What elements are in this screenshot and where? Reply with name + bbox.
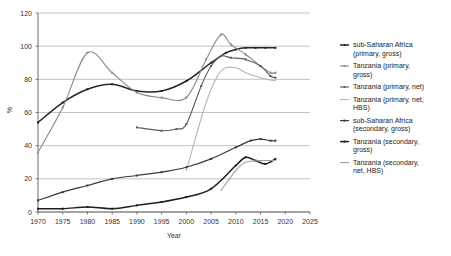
series-marker <box>62 107 64 109</box>
axis-lines <box>36 13 311 215</box>
series-marker <box>185 196 187 198</box>
legend-label: Tanzania (secondary,net, HBS) <box>353 159 419 175</box>
series-marker <box>255 47 257 49</box>
education-enrollment-chart: 020406080100120 197019751980198519901995… <box>0 0 451 256</box>
series-marker <box>111 72 113 74</box>
series-marker <box>269 72 271 74</box>
legend-entry-6[interactable]: Tanzania (secondary,net, HBS) <box>340 159 419 175</box>
series-marker <box>269 75 271 77</box>
legend-marker-icon <box>344 141 346 143</box>
x-tick-labels: 1970197519801985199019952000200520102015… <box>30 218 318 225</box>
series-marker <box>220 55 222 57</box>
y-axis-title: % <box>6 107 13 113</box>
x-axis-title-group: Year <box>167 232 182 239</box>
y-tick-label: 40 <box>24 142 32 149</box>
series-marker <box>200 85 202 87</box>
x-tick-label: 2020 <box>277 218 293 225</box>
legend-entry-1[interactable]: Tanzania (primary,gross) <box>340 62 410 78</box>
x-axis-title: Year <box>167 232 182 239</box>
x-tick-label: 1990 <box>129 218 145 225</box>
series-marker <box>161 90 163 92</box>
legend-marker-icon <box>344 44 346 46</box>
series-marker <box>37 199 39 201</box>
series-line-4 <box>38 139 275 200</box>
series-line-5 <box>38 157 275 209</box>
series-line-3 <box>186 67 275 170</box>
y-tick-label: 60 <box>24 109 32 116</box>
legend-entry-4[interactable]: sub-Saharan Africa(secondary, gross) <box>340 117 413 133</box>
series-marker <box>220 34 222 36</box>
x-tick-label: 2005 <box>203 218 219 225</box>
chart-canvas: 020406080100120 197019751980198519901995… <box>0 0 451 256</box>
legend-entry-3[interactable]: Tanzania (primary, net,HBS) <box>340 96 424 112</box>
series-marker <box>161 171 163 173</box>
series-marker <box>230 57 232 59</box>
legend-marker-icon <box>344 120 346 122</box>
series-marker <box>136 204 138 206</box>
series-line-6 <box>221 160 275 190</box>
series-marker <box>264 47 266 49</box>
y-tick-label: 80 <box>24 76 32 83</box>
y-axis-title-group: % <box>6 107 13 113</box>
series-marker <box>235 165 237 167</box>
x-tick-label: 1995 <box>154 218 170 225</box>
series-marker <box>225 52 227 54</box>
y-tick-label: 0 <box>28 209 32 216</box>
series-marker <box>210 158 212 160</box>
x-tick-label: 2015 <box>253 218 269 225</box>
legend-label: Tanzania (primary, net) <box>353 83 424 91</box>
x-tick-label: 2025 <box>302 218 318 225</box>
series-marker <box>245 47 247 49</box>
series-marker <box>274 140 276 142</box>
legend-label: Tanzania (primary, net,HBS) <box>353 96 424 112</box>
series-marker <box>210 62 212 64</box>
series-marker <box>175 128 177 130</box>
series-marker <box>260 138 262 140</box>
x-tick-label: 1975 <box>55 218 71 225</box>
series-marker <box>210 188 212 190</box>
series-marker <box>161 97 163 99</box>
x-tick-label: 1985 <box>104 218 120 225</box>
legend-entry-2[interactable]: Tanzania (primary, net) <box>340 83 424 91</box>
series-marker <box>37 121 39 123</box>
series-marker <box>161 130 163 132</box>
y-tick-label: 120 <box>20 10 32 17</box>
legend-marker-icon <box>344 86 346 88</box>
series-marker <box>111 178 113 180</box>
series-marker <box>264 163 266 165</box>
series-marker <box>269 140 271 142</box>
series-marker <box>274 158 276 160</box>
series-marker <box>62 208 64 210</box>
series-marker <box>136 126 138 128</box>
series-marker <box>245 53 247 55</box>
series-marker <box>230 44 232 46</box>
series-marker <box>245 156 247 158</box>
legend: sub-Saharan Africa(primary, gross)Tanzan… <box>340 41 424 175</box>
x-tick-label: 2010 <box>228 218 244 225</box>
series-marker <box>111 83 113 85</box>
series-marker <box>161 201 163 203</box>
legend-label: sub-Saharan Africa(secondary, gross) <box>353 117 413 133</box>
legend-label: Tanzania (secondary,gross) <box>353 138 419 154</box>
series-marker <box>86 206 88 208</box>
y-tick-labels: 020406080100120 <box>20 10 32 216</box>
legend-label: sub-Saharan Africa(primary, gross) <box>353 41 413 57</box>
series-marker <box>37 151 39 153</box>
y-tick-label: 100 <box>20 43 32 50</box>
series-marker <box>86 52 88 54</box>
legend-entry-5[interactable]: Tanzania (secondary,gross) <box>340 138 419 154</box>
series-marker <box>235 146 237 148</box>
series-marker <box>62 191 64 193</box>
series-marker <box>62 102 64 104</box>
x-tick-label: 1970 <box>30 218 46 225</box>
x-tick-label: 1980 <box>80 218 96 225</box>
series-marker <box>185 123 187 125</box>
legend-entry-0[interactable]: sub-Saharan Africa(primary, gross) <box>340 41 413 57</box>
series-marker <box>136 175 138 177</box>
series-marker <box>274 77 276 79</box>
legend-marker-icon <box>344 65 346 67</box>
series-marker <box>185 166 187 168</box>
series-marker <box>185 97 187 99</box>
series-marker <box>86 88 88 90</box>
series-marker <box>86 184 88 186</box>
